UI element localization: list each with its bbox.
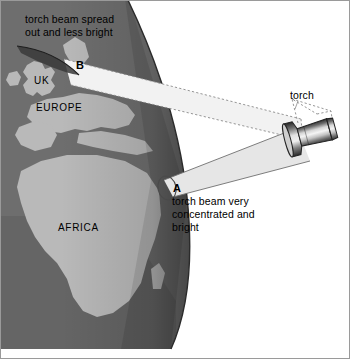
torch-leader-line (295, 101, 298, 109)
annotation-concentrated-note: torch beam very concentrated and bright (172, 195, 255, 234)
map-label-europe: EUROPE (36, 101, 82, 114)
map-label-africa: AFRICA (58, 221, 99, 234)
label-spot-a: A (173, 182, 181, 195)
label-spot-b: B (76, 59, 84, 72)
torch-barrel (297, 119, 333, 148)
annotation-torch-label: torch (290, 89, 314, 102)
diagram-figure: torch beam spread out and less bright to… (0, 0, 350, 359)
annotation-spread-note: torch beam spread out and less bright (25, 13, 114, 39)
diagram-canvas (1, 1, 350, 359)
map-label-uk: UK (34, 74, 49, 87)
